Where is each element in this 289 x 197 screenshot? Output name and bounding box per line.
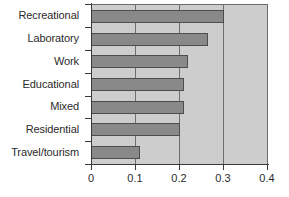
y-axis-label: Travel/tourism [0, 141, 84, 164]
y-axis-label: Work [0, 50, 84, 73]
bar-recreational [91, 10, 224, 23]
bar-row [91, 119, 267, 142]
bar-work [91, 55, 188, 68]
y-axis-tick [85, 141, 91, 142]
bar-travel-tourism [91, 146, 140, 159]
bar-chart: Recreational Laboratory Work Educational… [0, 0, 289, 197]
y-axis-labels: Recreational Laboratory Work Educational… [0, 4, 84, 164]
y-axis-label: Residential [0, 118, 84, 141]
x-axis-tick [91, 165, 92, 170]
y-axis-tick [85, 96, 91, 97]
x-axis-tick-label: 0.2 [171, 172, 186, 184]
bar-educational [91, 78, 184, 91]
y-axis-label: Mixed [0, 95, 84, 118]
x-axis-tick [267, 165, 268, 170]
x-axis-line [85, 164, 269, 165]
bar-row [91, 50, 267, 73]
x-axis-tick-label: 0.3 [215, 172, 230, 184]
bar-residential [91, 123, 180, 136]
x-axis-tick [179, 165, 180, 170]
y-axis-line [91, 3, 92, 165]
bar-row [91, 73, 267, 96]
x-axis-tick [223, 165, 224, 170]
x-axis-tick-label: 0.4 [259, 172, 274, 184]
y-axis-label: Recreational [0, 4, 84, 27]
y-axis-label: Laboratory [0, 27, 84, 50]
plot-area [91, 4, 268, 164]
bar-row [91, 5, 267, 28]
bar-row [91, 141, 267, 164]
y-axis-tick [85, 50, 91, 51]
x-axis-tick [135, 165, 136, 170]
y-axis-tick [85, 73, 91, 74]
y-axis-label: Educational [0, 73, 84, 96]
bar-laboratory [91, 33, 208, 46]
y-axis-tick [85, 27, 91, 28]
x-axis-tick-label: 0 [88, 172, 94, 184]
bars-layer [91, 5, 267, 164]
bar-mixed [91, 101, 184, 114]
y-axis-tick [85, 118, 91, 119]
x-axis-tick-label: 0.1 [127, 172, 142, 184]
bar-row [91, 96, 267, 119]
y-axis-tick [85, 4, 91, 5]
bar-row [91, 28, 267, 51]
